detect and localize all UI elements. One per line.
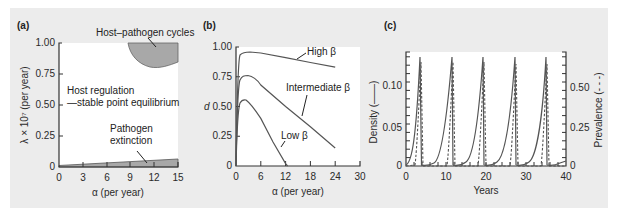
panel-b-xtick: 0 xyxy=(233,171,239,182)
panel-b-ytick: 0.25 xyxy=(213,130,233,141)
panel-a-xlabel: α (per year) xyxy=(92,187,144,198)
panel-a-ytick: 1.00 xyxy=(36,37,56,48)
panel-b-xtick: 24 xyxy=(330,171,342,182)
panel-a-ytick: 0.25 xyxy=(36,130,56,141)
panel-b-plot-area xyxy=(236,47,360,166)
panel-b-xtick: 6 xyxy=(258,171,264,182)
panel-c-xtick: 30 xyxy=(520,171,532,182)
panel-b: (b) 1.00 0.75 0.50 0.25 0 0 6 12 18 24 3… xyxy=(203,20,366,197)
panel-c-right-ylabel: Prevalence (- - -) xyxy=(593,72,604,147)
panel-c-xtick: 40 xyxy=(560,171,572,182)
panel-b-ylabel: d xyxy=(204,101,210,112)
panel-a-xtick: 3 xyxy=(80,172,86,183)
panel-b-xlabel: α (per year) xyxy=(272,186,324,197)
panel-a-xtick: 6 xyxy=(104,172,110,183)
label-pathogen: Pathogen xyxy=(110,123,153,134)
panel-a-xtick: 15 xyxy=(172,172,184,183)
panel-c-left-ylabel: Density (——) xyxy=(368,81,379,144)
panel-b-xtick: 18 xyxy=(305,171,317,182)
panel-a-ytick: 0 xyxy=(49,161,55,172)
panel-a-letter: (a) xyxy=(17,20,29,31)
panel-c-xlabel: Years xyxy=(473,185,498,196)
label-stable-equilibrium: —stable point equilibrium xyxy=(67,97,179,108)
figure-svg: (a) 1.00 0.75 0.50 0.25 0 0 3 6 9 12 15 … xyxy=(0,0,622,218)
panel-a-ytick: 0.75 xyxy=(36,68,56,79)
panel-a-xtick: 12 xyxy=(148,172,160,183)
panel-a-ytick: 0.50 xyxy=(36,99,56,110)
panel-c-left-ytick: 0 xyxy=(396,160,402,171)
panel-a-xtick: 9 xyxy=(127,172,133,183)
panel-b-ytick: 0.75 xyxy=(213,71,233,82)
panel-c-right-ytick: 0 xyxy=(570,160,576,171)
label-intermediate-beta: Intermediate β xyxy=(286,82,350,93)
panel-a-xtick: 0 xyxy=(56,172,62,183)
panel-c: (c) 0.10 0.05 0 0.50 0.25 0 0 10 20 30 4… xyxy=(368,20,604,196)
panel-c-right-ytick: 0.50 xyxy=(570,82,590,93)
panel-b-xtick: 30 xyxy=(354,171,366,182)
panel-c-xtick: 10 xyxy=(440,171,452,182)
panel-c-left-ytick: 0.10 xyxy=(383,80,403,91)
panel-b-ytick: 0.50 xyxy=(213,101,233,112)
panel-c-xtick: 0 xyxy=(403,171,409,182)
panel-b-ytick: 0 xyxy=(226,160,232,171)
panel-a: (a) 1.00 0.75 0.50 0.25 0 0 3 6 9 12 15 … xyxy=(17,20,194,198)
label-high-beta: High β xyxy=(307,46,336,57)
label-low-beta: Low β xyxy=(281,130,308,141)
panel-c-xtick: 20 xyxy=(480,171,492,182)
panel-c-left-ytick: 0.05 xyxy=(383,122,403,133)
panel-b-ytick: 1.00 xyxy=(213,41,233,52)
label-host-pathogen-cycles: Host–pathogen cycles xyxy=(96,27,194,38)
panel-b-letter: (b) xyxy=(203,20,216,31)
panel-c-letter: (c) xyxy=(384,20,396,31)
panel-a-ylabel: λ × 10⁷ (per year) xyxy=(19,66,30,143)
panel-b-xtick: 12 xyxy=(280,171,292,182)
label-extinction: extinction xyxy=(110,135,152,146)
label-host-regulation: Host regulation xyxy=(67,85,134,96)
panel-c-right-ytick: 0.25 xyxy=(570,122,590,133)
